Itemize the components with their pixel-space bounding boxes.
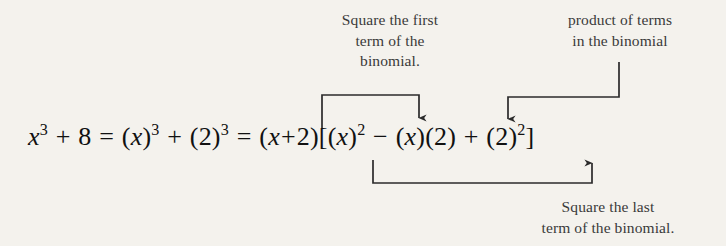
connector-product-of-terms [508, 62, 619, 119]
equation-second-cube-close: ) [212, 122, 221, 151]
equation-first-cube-exponent: 3 [151, 121, 159, 138]
equation-second-cube-open: ( [190, 122, 199, 151]
equation-sq-last-num: 2 [495, 122, 508, 151]
equation-binomial-num: 2 [297, 122, 310, 151]
equation-second-cube-num: 2 [199, 122, 212, 151]
equation-first-cube-open: ( [122, 122, 131, 151]
equation-sq-first-close: ) [348, 122, 357, 151]
equation-equals-1: = [98, 122, 115, 151]
equation-binomial-open: ( [259, 122, 268, 151]
equation-sq-last-exponent: 2 [517, 121, 525, 138]
equation-sq-first-open: ( [328, 122, 337, 151]
equation-lhs-exponent: 3 [40, 121, 48, 138]
equation-sq-first-exponent: 2 [357, 121, 365, 138]
equation-binomial-close: ) [310, 122, 319, 151]
equation-product-var: x [405, 122, 417, 151]
equation-sq-last-open: ( [486, 122, 495, 151]
equation-sq-last-close: ) [508, 122, 517, 151]
equation-plus-1: + [55, 122, 72, 151]
equation-expression: x3 + 8 = (x)3 + (2)3 = (x+2)[(x)2 − (x)(… [28, 124, 534, 150]
equation-plus-2: + [166, 122, 183, 151]
equation-second-cube-exponent: 3 [221, 121, 229, 138]
equation-equals-2: = [236, 122, 253, 151]
equation-constant: 8 [78, 122, 91, 151]
equation-product-open: ( [396, 122, 405, 151]
equation-product-second: (2) [425, 122, 456, 151]
equation-plus-3: + [280, 122, 297, 151]
equation-sq-first-var: x [337, 122, 349, 151]
annotation-square-last-term: Square the last term of the binomial. [494, 197, 722, 238]
figure-canvas: Square the first term of the binomial. p… [0, 0, 726, 246]
equation-lhs-base: x [28, 122, 40, 151]
equation-first-cube-var: x [131, 122, 143, 151]
annotation-square-first-term: Square the first term of the binomial. [288, 10, 492, 72]
equation-plus-4: + [463, 122, 480, 151]
annotation-product-of-terms: product of terms in the binomial [520, 10, 720, 51]
equation-minus: − [372, 122, 389, 151]
equation-product-close: ) [416, 122, 425, 151]
equation-bracket-open: [ [319, 122, 328, 151]
equation-binomial-var: x [268, 122, 280, 151]
connector-square-last-term [373, 160, 592, 183]
equation-bracket-close: ] [526, 122, 535, 151]
equation-first-cube-close: ) [142, 122, 151, 151]
